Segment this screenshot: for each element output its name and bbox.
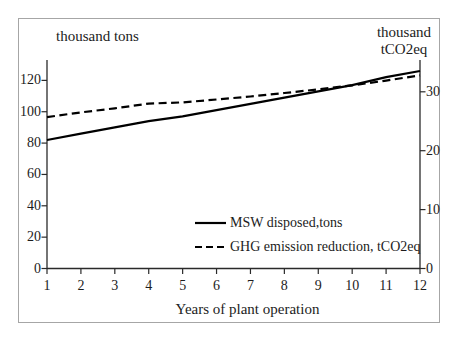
left-axis-tick-label: 100 (9, 105, 41, 119)
x-axis-tick-label: 8 (272, 279, 296, 293)
x-axis-tick-label: 4 (137, 279, 161, 293)
legend-row-ghg: GHG emission reduction, tCO2eq (195, 235, 421, 259)
x-axis-tick-label: 6 (205, 279, 229, 293)
right-axis-title: thousand tCO2eq (374, 24, 434, 58)
left-axis-tick-label: 60 (9, 167, 41, 181)
x-axis-tick-label: 9 (306, 279, 330, 293)
left-axis-title: thousand tons (56, 28, 139, 45)
right-axis-title-line2: tCO2eq (374, 41, 434, 58)
left-axis-tick-label: 80 (9, 136, 41, 150)
right-axis-tick-label: 0 (426, 262, 433, 276)
x-axis-tick-label: 12 (408, 279, 432, 293)
x-axis-tick-label: 10 (340, 279, 364, 293)
ghg-line-sample-icon (195, 243, 226, 251)
left-axis-tick-label: 20 (9, 230, 41, 244)
legend-row-msw: MSW disposed,tons (195, 211, 421, 235)
x-axis-tick-label: 11 (374, 279, 398, 293)
x-axis-tick-label: 2 (69, 279, 93, 293)
left-axis-tick-label: 40 (9, 199, 41, 213)
left-axis-tick-label: 0 (9, 262, 41, 276)
msw-line (47, 71, 420, 140)
right-axis-tick-label: 10 (426, 203, 440, 217)
legend-label-ghg: GHG emission reduction, tCO2eq (230, 239, 421, 255)
x-axis-tick-label: 7 (238, 279, 262, 293)
x-axis-tick-label: 1 (35, 279, 59, 293)
msw-line-sample-icon (195, 219, 226, 227)
left-axis-tick-label: 120 (9, 73, 41, 87)
right-axis-tick-label: 20 (426, 144, 440, 158)
x-axis-tick-label: 3 (103, 279, 127, 293)
x-axis-tick-label: 5 (171, 279, 195, 293)
legend: MSW disposed,tons GHG emission reduction… (195, 211, 421, 259)
right-axis-title-line1: thousand (374, 24, 434, 41)
chart-figure: thousand tons thousand tCO2eq Years of p… (0, 0, 455, 344)
x-axis-title: Years of plant operation (160, 301, 335, 318)
legend-label-msw: MSW disposed,tons (230, 215, 343, 231)
right-axis-tick-label: 30 (426, 85, 440, 99)
